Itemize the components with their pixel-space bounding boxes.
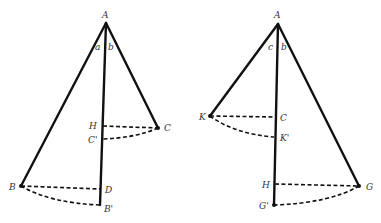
label-C-prime: C' xyxy=(88,135,97,145)
edge-AK xyxy=(210,24,278,116)
label-D: D xyxy=(104,185,112,195)
right-figure: A c b K C K' H G G' xyxy=(198,10,373,211)
arc-G-G-prime xyxy=(274,186,359,205)
edge-AB-prime-axis xyxy=(100,23,106,205)
label-G: G xyxy=(366,182,373,192)
label-H: H xyxy=(88,121,97,131)
point-B xyxy=(19,184,23,188)
left-figure: A a b H C C' B D B' xyxy=(8,10,171,214)
label-B-prime: B' xyxy=(103,204,113,214)
label-K-prime: K' xyxy=(279,133,289,143)
edge-AC xyxy=(106,23,158,128)
label-G-prime: G' xyxy=(259,201,269,211)
label-C: C xyxy=(280,113,287,123)
dashed-HG xyxy=(275,184,359,186)
point-C xyxy=(156,126,160,130)
label-angle-a: a xyxy=(95,42,100,52)
label-A: A xyxy=(273,10,281,20)
label-A: A xyxy=(101,10,109,20)
edge-AB xyxy=(21,23,106,186)
label-K: K xyxy=(198,112,207,122)
point-K xyxy=(208,114,212,118)
label-angle-b: b xyxy=(108,42,114,52)
edge-AG xyxy=(278,24,359,186)
arc-K-K-prime xyxy=(210,116,274,137)
label-angle-c: c xyxy=(268,42,273,52)
edge-A-G-prime-axis xyxy=(274,24,278,205)
label-B: B xyxy=(8,182,16,192)
dashed-HC xyxy=(103,126,158,128)
label-H: H xyxy=(261,180,270,190)
dashed-BD xyxy=(21,186,101,189)
dashed-KC xyxy=(210,116,275,117)
diagram-canvas: A a b H C C' B D B' A c b K C K' H G G' xyxy=(0,0,381,223)
label-C: C xyxy=(164,123,171,133)
arc-C-C-prime xyxy=(102,128,158,139)
label-angle-b: b xyxy=(281,42,287,52)
point-G xyxy=(357,184,361,188)
point-G-prime xyxy=(272,203,276,207)
